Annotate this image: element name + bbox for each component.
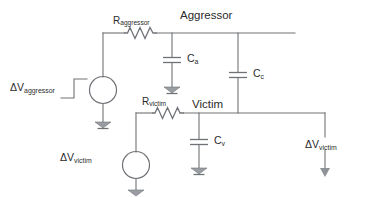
label-capacitor-ca-base: C xyxy=(187,52,195,64)
label-capacitor-cv: Cv xyxy=(214,135,225,146)
resistor-victim-symbol xyxy=(152,108,184,119)
node-label-aggressor: Aggressor xyxy=(180,10,232,22)
label-capacitor-cc: Cc xyxy=(253,68,264,79)
label-source-victim: ΔVvictim xyxy=(60,152,92,163)
label-capacitor-cc-base: C xyxy=(253,67,261,79)
label-resistor-aggressor: Raggressor xyxy=(113,16,150,26)
label-source-victim-sub: victim xyxy=(74,157,92,164)
label-source-aggressor-sub: aggressor xyxy=(24,87,55,94)
label-resistor-victim-sub: victim xyxy=(149,100,166,107)
ground-ca xyxy=(164,87,180,94)
label-resistor-victim: Rvictim xyxy=(142,97,166,107)
label-source-victim-base: ΔV xyxy=(60,151,74,163)
ground-aggressor-source xyxy=(95,122,111,129)
label-resistor-aggressor-sub: aggressor xyxy=(120,19,149,26)
diagram-canvas: Aggressor Victim Raggressor Rvictim Ca C… xyxy=(0,0,365,197)
label-capacitor-cv-sub: v xyxy=(222,140,225,147)
arrow-output-victim-head xyxy=(320,168,330,177)
label-output-victim: ΔVvictim xyxy=(305,139,337,150)
label-source-aggressor-base: ΔV xyxy=(10,81,24,93)
source-victim-symbol xyxy=(123,152,150,179)
label-capacitor-ca: Ca xyxy=(187,53,198,64)
circuit-schematic xyxy=(0,0,365,197)
source-aggressor-symbol xyxy=(90,77,117,104)
label-output-victim-base: ΔV xyxy=(305,138,319,150)
label-capacitor-cc-sub: c xyxy=(261,73,264,80)
label-source-aggressor: ΔVaggressor xyxy=(10,82,55,93)
label-capacitor-ca-sub: a xyxy=(195,58,199,65)
ground-victim-source xyxy=(128,190,144,196)
label-capacitor-cv-base: C xyxy=(214,134,222,146)
resistor-aggressor-symbol xyxy=(124,28,157,39)
waveform-step-aggressor xyxy=(61,79,87,98)
label-output-victim-sub: victim xyxy=(319,144,337,151)
node-label-victim: Victim xyxy=(192,99,223,111)
ground-cv xyxy=(191,168,207,175)
